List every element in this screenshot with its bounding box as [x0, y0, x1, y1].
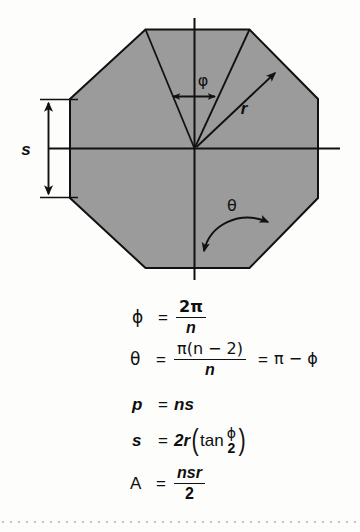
formula-theta-denominator: n	[202, 360, 218, 379]
formula-A-fraction: nsr 2	[174, 464, 205, 503]
polygon-figure: r φ θ s ϕ = 2π n θ = π(n − 2) n	[0, 0, 360, 532]
formula-s-function: tan	[200, 432, 224, 449]
formula-A-equals: =	[150, 475, 172, 492]
formula-phi-equals: =	[152, 309, 174, 326]
formula-p-equals: =	[152, 396, 174, 413]
formula-phi-lhs: ϕ	[132, 309, 152, 326]
formula-theta-tail: π − ϕ	[274, 351, 318, 367]
formula-phi-denominator: n	[183, 318, 199, 337]
formula-theta-lhs: θ	[130, 351, 150, 368]
formula-theta-fraction: π(n − 2) n	[174, 340, 246, 379]
formula-A-numerator: nsr	[174, 464, 205, 484]
formula-p: p = ns	[132, 396, 194, 413]
open-paren: (	[191, 428, 198, 453]
formula-theta-equals: =	[150, 351, 172, 368]
formula-A: A = nsr 2	[130, 464, 207, 503]
formula-theta-equals-2: =	[252, 351, 274, 368]
formula-p-lhs: p	[132, 396, 152, 413]
s-label: s	[21, 140, 30, 159]
formula-phi-fraction: 2π n	[176, 298, 206, 337]
phi-label: φ	[198, 71, 209, 90]
close-paren: )	[238, 428, 245, 453]
formula-p-rhs: ns	[174, 396, 194, 413]
formula-list: ϕ = 2π n θ = π(n − 2) n = π − ϕ p = ns	[0, 292, 360, 512]
formula-phi: ϕ = 2π n	[132, 298, 208, 337]
theta-label: θ	[227, 196, 237, 215]
formula-s-equals: =	[152, 432, 174, 449]
formula-A-lhs: A	[130, 475, 150, 492]
footer-dotted-rule	[2, 521, 358, 523]
octagon-diagram: r φ θ s	[0, 0, 360, 290]
formula-s-arg-denominator: 2	[227, 441, 235, 456]
formula-theta: θ = π(n − 2) n = π − ϕ	[130, 340, 318, 379]
formula-theta-numerator: π(n − 2)	[174, 340, 246, 360]
formula-s: s = 2r ( tan ϕ 2 )	[132, 426, 247, 455]
formula-s-arg-numerator: ϕ	[227, 426, 236, 441]
formula-phi-numerator: 2π	[176, 298, 206, 318]
formula-s-argument-fraction: ϕ 2	[227, 426, 236, 455]
formula-A-denominator: 2	[182, 484, 197, 503]
formula-s-coefficient: 2r	[174, 432, 190, 449]
formula-s-lhs: s	[132, 432, 152, 449]
